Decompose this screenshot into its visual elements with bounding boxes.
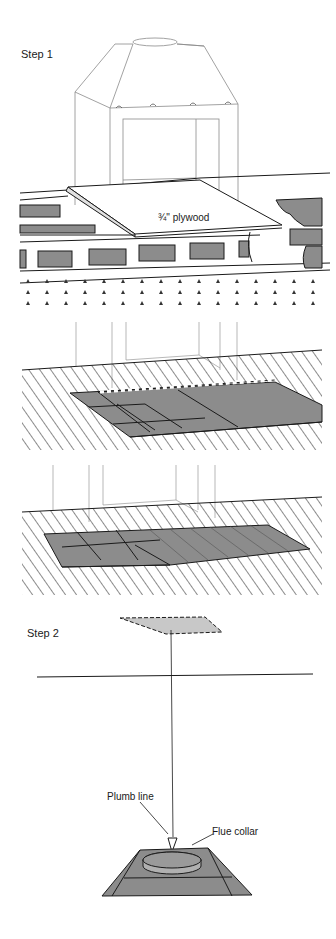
plumb-line: [171, 630, 173, 837]
plumb-line-label: Plumb line: [107, 791, 154, 802]
plywood-label: ¾" plywood: [158, 212, 209, 223]
illustration: [0, 0, 336, 939]
hearth-ledge: [276, 198, 322, 268]
plywood-sheet: [66, 180, 282, 237]
ceiling-line: [37, 674, 313, 677]
stove-top: [102, 848, 252, 896]
flue-collar-leader: [192, 834, 213, 845]
plumb-line-leader: [140, 802, 168, 834]
tile-panel-partial: [22, 322, 322, 450]
flue-top-icon: [133, 38, 177, 46]
step-2-label: Step 2: [27, 627, 59, 639]
gravel-texture: [20, 273, 330, 305]
step-1-label: Step 1: [21, 48, 53, 60]
tile-panel-complete: [22, 465, 322, 595]
flue-collar-label: Flue collar: [212, 826, 258, 837]
